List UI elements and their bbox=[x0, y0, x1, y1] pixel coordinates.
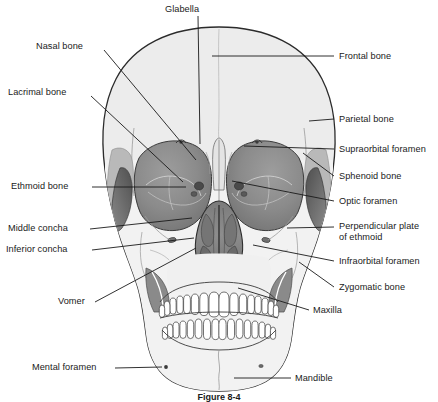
label-vomer: Vomer bbox=[58, 296, 85, 307]
label-maxilla: Maxilla bbox=[313, 305, 342, 316]
label-text: Perpendicular plate bbox=[339, 221, 419, 231]
label-text: Supraorbital foramen bbox=[339, 144, 426, 154]
label-supraorbital-foramen: Supraorbital foramen bbox=[339, 144, 426, 155]
label-inferior-concha: Inferior concha bbox=[6, 244, 68, 255]
label-optic-foramen: Optic foramen bbox=[339, 196, 397, 207]
mental-foramen-right bbox=[259, 364, 263, 367]
label-text: Maxilla bbox=[313, 305, 342, 315]
label-text: Sphenoid bone bbox=[339, 171, 401, 181]
label-ethmoid-bone: Ethmoid bone bbox=[11, 181, 68, 192]
optic-foramen-left bbox=[194, 182, 203, 190]
label-middle-concha: Middle concha bbox=[8, 223, 68, 234]
label-zygomatic-bone: Zygomatic bone bbox=[339, 282, 405, 293]
label-text: Ethmoid bone bbox=[11, 181, 68, 191]
label-infraorbital-foramen: Infraorbital foramen bbox=[339, 256, 420, 267]
label-text: Vomer bbox=[58, 296, 85, 306]
label-text: Nasal bone bbox=[36, 41, 83, 51]
label-text: Parietal bone bbox=[339, 114, 394, 124]
label-text: Lacrimal bone bbox=[8, 87, 66, 97]
label-parietal-bone: Parietal bone bbox=[339, 114, 394, 125]
label-text-line2: of ethmoid bbox=[339, 232, 382, 242]
maxilla-body bbox=[167, 254, 271, 293]
skull-anatomy-figure: GlabellaNasal boneLacrimal boneEthmoid b… bbox=[0, 0, 438, 402]
label-mental-foramen: Mental foramen bbox=[32, 362, 97, 373]
label-frontal-bone: Frontal bone bbox=[339, 51, 391, 62]
label-text: Infraorbital foramen bbox=[339, 256, 420, 266]
label-mandible: Mandible bbox=[295, 373, 333, 384]
label-glabella: Glabella bbox=[165, 4, 199, 15]
label-text: Mandible bbox=[295, 373, 333, 383]
figure-caption: Figure 8-4 bbox=[0, 392, 438, 402]
label-text: Frontal bone bbox=[339, 51, 391, 61]
label-text: Zygomatic bone bbox=[339, 282, 405, 292]
label-lacrimal-bone: Lacrimal bone bbox=[8, 87, 66, 98]
mental-foramen-left bbox=[164, 365, 168, 369]
label-nasal-bone: Nasal bone bbox=[36, 41, 83, 52]
label-text: Inferior concha bbox=[6, 244, 68, 254]
supraorbital-foramen-right bbox=[255, 140, 258, 143]
label-text: Optic foramen bbox=[339, 196, 397, 206]
leader-mental-foramen bbox=[115, 367, 162, 368]
label-text: Middle concha bbox=[8, 223, 68, 233]
label-text: Glabella bbox=[165, 4, 199, 14]
label-text: Mental foramen bbox=[32, 362, 97, 372]
label-perpendicular-plate: Perpendicular plateof ethmoid bbox=[339, 221, 431, 242]
label-sphenoid-bone: Sphenoid bone bbox=[339, 171, 401, 182]
